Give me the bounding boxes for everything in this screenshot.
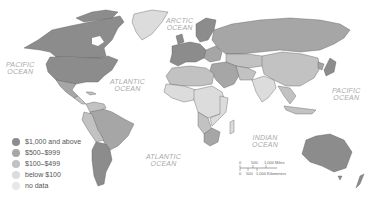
legend-swatch-icon [12,160,20,168]
region-middle-east [210,62,240,88]
ocean-label-line: OCEAN [146,160,181,167]
legend-item-no-data: no data [12,180,81,191]
map-legend: $1,000 and above $500–$999 $100–$499 bel… [12,136,81,191]
region-indonesia [284,106,316,114]
ocean-label-line: OCEAN [332,94,361,101]
ocean-label-line: OCEAN [110,85,145,92]
ocean-label-atlantic-south: ATLANTIC OCEAN [146,153,181,167]
region-canada-alaska [24,16,124,58]
region-india [252,76,276,102]
region-west-africa [164,84,196,102]
legend-item-100-499: $100–$499 [12,158,81,169]
region-iran-afghanistan [236,66,256,80]
region-central-america [74,96,86,104]
ocean-label-line: ATLANTIC [146,153,181,160]
region-madagascar [230,120,234,134]
legend-label: below $100 [25,171,61,178]
ocean-label-pacific-west: PACIFIC OCEAN [6,61,35,75]
region-usa [46,56,118,84]
ocean-label-atlantic-north: ATLANTIC OCEAN [110,78,145,92]
region-russia [212,18,350,54]
legend-swatch-icon [12,149,20,157]
legend-item-below-100: below $100 [12,169,81,180]
scale-km-tick: 500 [246,171,253,176]
legend-label: no data [25,182,48,189]
ocean-label-arctic: ARCTIC OCEAN [166,17,193,31]
region-japan [324,58,336,76]
legend-label: $1,000 and above [25,138,81,145]
ocean-label-line: OCEAN [166,24,193,31]
region-argentina-chile [92,142,112,186]
region-southeast-asia [278,86,296,104]
region-tasmania [338,176,342,180]
ocean-label-line: ATLANTIC [110,78,145,85]
scale-bar: 0 500 1,000 Miles 0 500 1,000 Kilometers [239,160,319,176]
scale-km-tick: 0 [239,171,241,176]
region-new-zealand [356,174,364,188]
ocean-label-line: ARCTIC [166,17,193,24]
ocean-label-line: PACIFIC [332,87,361,94]
ocean-label-line: OCEAN [252,141,278,148]
ocean-label-pacific-east: PACIFIC OCEAN [332,87,361,101]
scale-km-tick: 1,000 Kilometers [256,171,286,176]
region-uk [176,34,184,44]
region-western-europe [170,42,206,66]
legend-label: $500–$999 [25,149,60,156]
legend-item-1000-above: $1,000 and above [12,136,81,147]
legend-label: $100–$499 [25,160,60,167]
ocean-label-line: OCEAN [6,68,35,75]
region-greenland [132,10,168,40]
legend-swatch-icon [12,138,20,146]
world-map: ARCTIC OCEAN PACIFIC OCEAN ATLANTIC OCEA… [0,0,376,206]
legend-swatch-icon [12,182,20,190]
ocean-label-line: INDIAN [252,134,278,141]
ocean-label-line: PACIFIC [6,61,35,68]
ocean-label-indian: INDIAN OCEAN [252,134,278,148]
legend-swatch-icon [12,171,20,179]
region-north-africa [166,66,214,86]
legend-item-500-999: $500–$999 [12,147,81,158]
